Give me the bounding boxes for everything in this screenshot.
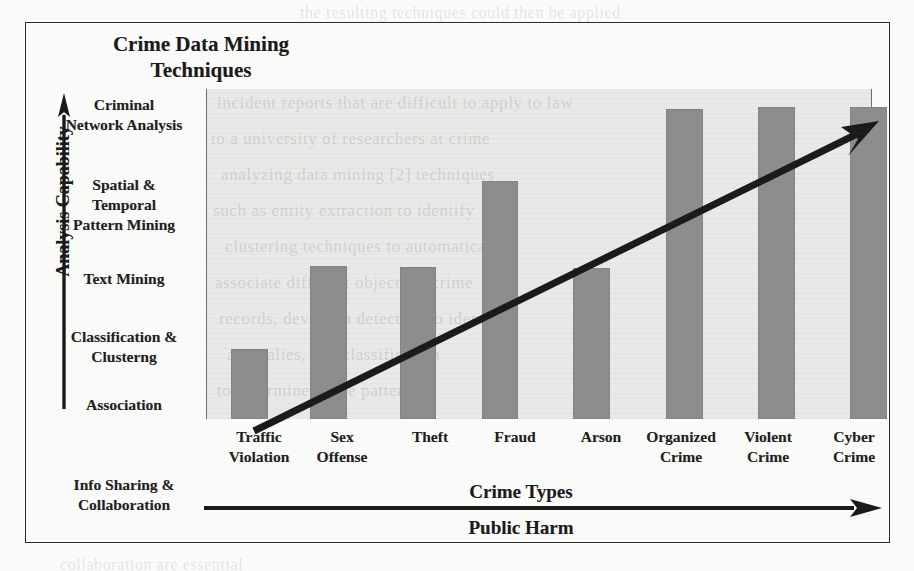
- y-tick-line: Temporal: [40, 195, 208, 215]
- bar-fraud: [482, 181, 518, 419]
- x-tick-line: Crime: [633, 447, 729, 467]
- x-tick-line: Theft: [382, 427, 478, 447]
- x-tick-label-organized-crime: Organized Crime: [633, 427, 729, 466]
- x-tick-line: Fraud: [467, 427, 563, 447]
- chart-title-line-1: Crime Data Mining: [113, 32, 289, 56]
- foundation-label-line: Info Sharing &: [40, 475, 208, 495]
- bleed-text-line: incident reports that are difficult to a…: [217, 93, 573, 113]
- bleed-text-line: such as entity extraction to identify: [213, 201, 475, 221]
- y-tick-line: Classification &: [40, 327, 208, 347]
- bar-violent-crime: [758, 107, 795, 419]
- x-tick-label-theft: Theft: [382, 427, 478, 447]
- chart-title-line-2: Techniques: [56, 57, 346, 83]
- y-tick-line: Spatial &: [40, 175, 208, 195]
- bar-cyber-crime: [850, 107, 887, 419]
- x-tick-label-sex-offense: Sex Offense: [294, 427, 390, 466]
- y-tick-line: Text Mining: [40, 269, 208, 289]
- bleed-text-line: clustering techniques to automatically: [225, 237, 506, 257]
- foundation-label-info-sharing-collaboration: Info Sharing & Collaboration: [40, 475, 208, 515]
- bleed-text-line: analyzing data mining [2] techniques: [221, 165, 495, 185]
- x-tick-label-fraud: Fraud: [467, 427, 563, 447]
- y-tick-label-criminal-network-analysis: Criminal Network Analysis: [40, 95, 208, 135]
- x-tick-label-traffic-violation: Traffic Violation: [211, 427, 307, 466]
- x-tick-label-violent-crime: Violent Crime: [720, 427, 816, 466]
- y-tick-line: Criminal: [40, 95, 208, 115]
- x-axis-secondary-title: Public Harm: [406, 517, 636, 539]
- y-tick-line: Clusterng: [40, 347, 208, 367]
- x-tick-line: Cyber: [806, 427, 902, 447]
- y-tick-label-classification-clustering: Classification & Clusterng: [40, 327, 208, 367]
- y-tick-line: Association: [40, 395, 208, 415]
- bar-traffic-violation: [231, 349, 268, 419]
- bar-arson: [573, 268, 610, 419]
- public-harm-arrow-icon: [204, 499, 882, 517]
- chart-title: Crime Data Mining Techniques: [56, 31, 346, 83]
- plot-area: incident reports that are difficult to a…: [206, 89, 872, 419]
- bleed-text-line: records, deviation detection to identify: [219, 309, 506, 329]
- y-tick-label-spatial-temporal-pattern-mining: Spatial & Temporal Pattern Mining: [40, 175, 208, 234]
- foundation-label-line: Collaboration: [40, 495, 208, 515]
- y-tick-label-association: Association: [40, 395, 208, 415]
- x-tick-label-cyber-crime: Cyber Crime: [806, 427, 902, 466]
- x-tick-line: Organized: [633, 427, 729, 447]
- y-tick-line: Pattern Mining: [40, 215, 208, 235]
- bar-sex-offense: [310, 266, 347, 419]
- x-tick-line: Crime: [720, 447, 816, 467]
- figure-frame: Crime Data Mining Techniques Analysis Ca…: [25, 22, 890, 543]
- x-tick-line: Traffic: [211, 427, 307, 447]
- bleed-text-line: to a university of researchers at crime: [211, 129, 490, 149]
- x-tick-line: Sex: [294, 427, 390, 447]
- bar-theft: [400, 267, 436, 419]
- x-tick-line: Offense: [294, 447, 390, 467]
- x-tick-line: Violation: [211, 447, 307, 467]
- y-tick-line: Network Analysis: [40, 115, 208, 135]
- x-tick-line: Violent: [720, 427, 816, 447]
- bar-organized-crime: [666, 109, 703, 419]
- y-tick-label-text-mining: Text Mining: [40, 269, 208, 289]
- x-tick-line: Crime: [806, 447, 902, 467]
